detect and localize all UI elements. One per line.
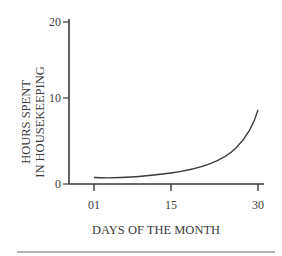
chart: 20 10 0 01 15 30 DAYS OF THE MONTH HOURS… — [0, 0, 282, 256]
y-axis-label-line2: IN HOUSEKEEPING — [33, 66, 47, 177]
x-axis-label: DAYS OF THE MONTH — [92, 223, 220, 237]
data-line — [94, 110, 258, 178]
y-tick-label-0: 0 — [55, 177, 61, 191]
y-axis-label-line1: HOURS SPENT — [19, 80, 33, 164]
x-tick-label-01: 01 — [88, 198, 100, 212]
y-tick-label-10: 10 — [49, 91, 61, 105]
x-tick-label-30: 30 — [252, 198, 264, 212]
x-tick-label-15: 15 — [165, 198, 177, 212]
y-tick-label-20: 20 — [49, 15, 61, 29]
